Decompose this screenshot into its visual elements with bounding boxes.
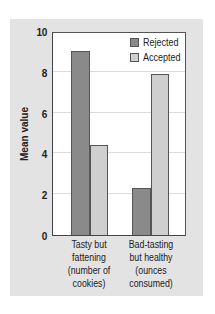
bar-accepted xyxy=(151,74,169,235)
legend-swatch-icon xyxy=(130,53,139,62)
legend-swatch-icon xyxy=(130,38,139,47)
x-category-label: Tasty butfattening(number ofcookies) xyxy=(63,238,116,290)
y-tick-label: 4 xyxy=(42,149,47,160)
legend-label: Accepted xyxy=(143,52,181,63)
legend-label: Rejected xyxy=(143,37,179,48)
y-tick-label: 6 xyxy=(42,108,47,119)
y-tick-label: 2 xyxy=(42,190,47,201)
y-tick-label: 8 xyxy=(42,67,47,78)
legend: RejectedAccepted xyxy=(130,36,185,66)
legend-item-accepted: Accepted xyxy=(130,51,185,64)
legend-item-rejected: Rejected xyxy=(130,36,185,49)
y-axis-label: Mean value xyxy=(19,107,30,161)
bar-rejected xyxy=(71,51,90,235)
y-tick-label: 10 xyxy=(36,27,47,38)
bar-accepted xyxy=(90,145,108,235)
bar-rejected xyxy=(132,188,151,235)
y-tick-label: 0 xyxy=(42,231,47,242)
x-category-label: Bad-tastingbut healthy(ouncesconsumed) xyxy=(125,238,178,290)
